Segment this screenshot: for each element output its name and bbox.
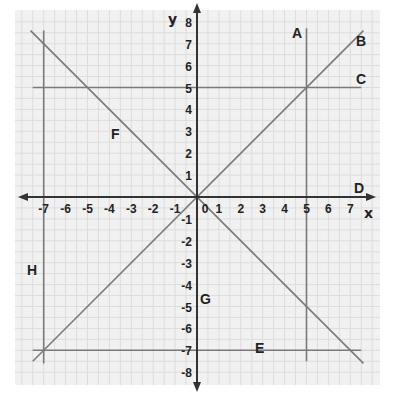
y-axis-arrow-up-icon	[193, 3, 201, 13]
y-tick-label: 6	[185, 60, 192, 74]
y-tick-label: 4	[185, 103, 192, 117]
y-tick-label: -1	[181, 213, 192, 227]
y-tick-label: -3	[181, 257, 192, 271]
x-tick-label: 4	[281, 202, 288, 216]
x-tick-label: 2	[237, 202, 244, 216]
y-tick-label: -5	[181, 301, 192, 315]
y-tick-label: -8	[181, 366, 192, 380]
coordinate-plane-diagram: -7-6-5-4-3-2-10123456787654321-1-2-3-4-5…	[0, 0, 393, 396]
y-tick-label: -2	[181, 235, 192, 249]
x-tick-label: -6	[60, 202, 71, 216]
y-tick-label: 2	[185, 147, 192, 161]
y-tick-label: -6	[181, 322, 192, 336]
line-label-b: B	[356, 33, 366, 49]
x-tick-label: -4	[104, 202, 115, 216]
y-axis-arrow-down-icon	[193, 382, 201, 392]
x-axis-label: x	[364, 205, 373, 221]
x-tick-label: 1	[216, 202, 223, 216]
line-label-d: D	[354, 180, 364, 196]
y-tick-label: -7	[181, 344, 192, 358]
y-tick-label: 5	[185, 82, 192, 96]
y-tick-label: 7	[185, 38, 192, 52]
y-tick-label: 1	[185, 169, 192, 183]
x-tick-label: 3	[259, 202, 266, 216]
x-tick-label: -3	[126, 202, 137, 216]
x-tick-label: -2	[148, 202, 159, 216]
y-tick-label: -4	[181, 279, 192, 293]
x-tick-label: -1	[170, 202, 181, 216]
x-tick-label: 7	[347, 202, 354, 216]
line-label-g: G	[200, 291, 211, 307]
line-label-a: A	[292, 25, 302, 41]
line-label-f: F	[111, 126, 120, 142]
y-axis-label: y	[168, 11, 177, 27]
line-label-c: C	[356, 71, 366, 87]
plot-canvas: -7-6-5-4-3-2-10123456787654321-1-2-3-4-5…	[0, 0, 393, 396]
x-tick-label: -5	[82, 202, 93, 216]
x-tick-label: 6	[325, 202, 332, 216]
x-tick-label: -7	[38, 202, 49, 216]
y-tick-label: 8	[185, 16, 192, 30]
y-tick-label: 3	[185, 125, 192, 139]
line-label-h: H	[27, 262, 37, 278]
x-tick-label: 5	[303, 202, 310, 216]
x-tick-label: 0	[202, 202, 209, 216]
line-label-e: E	[255, 340, 264, 356]
